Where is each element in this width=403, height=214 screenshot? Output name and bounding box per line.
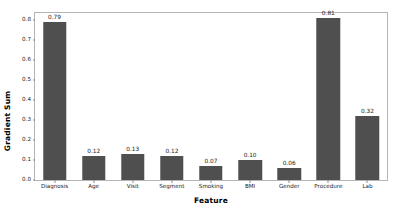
bar: 0.12 xyxy=(160,156,183,180)
y-tick-mark xyxy=(33,160,36,161)
bar-value-label: 0.10 xyxy=(244,153,257,159)
x-tick-label: Smoking xyxy=(199,184,223,190)
y-tick-mark xyxy=(33,60,36,61)
bar: 0.32 xyxy=(356,116,379,180)
x-tick-mark xyxy=(367,180,368,183)
plot-inner-surface: 0.00.10.20.30.40.50.60.70.80.79Diagnosis… xyxy=(35,13,387,180)
bar-value-label: 0.79 xyxy=(48,15,61,21)
x-tick-label: Procedure xyxy=(314,184,342,190)
x-tick-label: Diagnosis xyxy=(41,184,68,190)
y-tick-label: 0.4 xyxy=(22,97,31,103)
bar-value-label: 0.32 xyxy=(361,109,374,115)
bar: 0.07 xyxy=(199,166,222,180)
x-tick-mark xyxy=(171,180,172,183)
y-tick-label: 0.2 xyxy=(22,137,31,143)
bar-value-label: 0.06 xyxy=(283,161,296,167)
x-tick-mark xyxy=(289,180,290,183)
bar-value-label: 0.13 xyxy=(126,147,139,153)
x-tick-label: Segment xyxy=(159,184,184,190)
bar-value-label: 0.81 xyxy=(322,11,335,17)
y-tick-label: 0.1 xyxy=(22,157,31,163)
y-tick-mark xyxy=(33,40,36,41)
bar: 0.79 xyxy=(43,22,66,180)
bar: 0.12 xyxy=(82,156,105,180)
y-tick-label: 0.0 xyxy=(22,177,31,183)
plot-area: 0.00.10.20.30.40.50.60.70.80.79Diagnosis… xyxy=(34,12,388,181)
x-tick-mark xyxy=(250,180,251,183)
x-tick-mark xyxy=(211,180,212,183)
y-tick-mark xyxy=(33,100,36,101)
y-tick-mark xyxy=(33,180,36,181)
bar-chart-figure: Gradient Sum 0.00.10.20.30.40.50.60.70.8… xyxy=(0,0,403,214)
y-tick-label: 0.7 xyxy=(22,37,31,43)
x-axis-title: Feature xyxy=(34,196,388,205)
y-tick-label: 0.8 xyxy=(22,17,31,23)
x-tick-mark xyxy=(93,180,94,183)
y-axis-title: Gradient Sum xyxy=(0,14,14,214)
y-tick-mark xyxy=(33,80,36,81)
bar-value-label: 0.12 xyxy=(165,149,178,155)
bar-value-label: 0.12 xyxy=(87,149,100,155)
x-tick-label: BMI xyxy=(245,184,255,190)
bar: 0.13 xyxy=(121,154,144,180)
y-tick-label: 0.3 xyxy=(22,117,31,123)
x-tick-mark xyxy=(54,180,55,183)
x-tick-mark xyxy=(328,180,329,183)
x-tick-label: Gender xyxy=(279,184,300,190)
bar: 0.06 xyxy=(277,168,300,180)
x-tick-label: Age xyxy=(88,184,99,190)
y-tick-mark xyxy=(33,140,36,141)
x-tick-label: Visit xyxy=(127,184,139,190)
bar: 0.10 xyxy=(238,160,261,180)
y-tick-label: 0.5 xyxy=(22,77,31,83)
y-tick-label: 0.6 xyxy=(22,57,31,63)
bar: 0.81 xyxy=(317,18,340,180)
bar-value-label: 0.07 xyxy=(205,159,218,165)
x-tick-label: Lab xyxy=(362,184,372,190)
y-tick-mark xyxy=(33,20,36,21)
y-tick-mark xyxy=(33,120,36,121)
x-tick-mark xyxy=(132,180,133,183)
